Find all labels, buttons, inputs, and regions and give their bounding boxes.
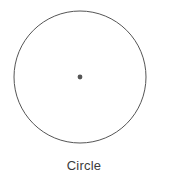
figure-canvas: Circle xyxy=(0,0,194,185)
center-point-dot-icon xyxy=(78,75,83,80)
figure-caption: Circle xyxy=(0,158,168,174)
